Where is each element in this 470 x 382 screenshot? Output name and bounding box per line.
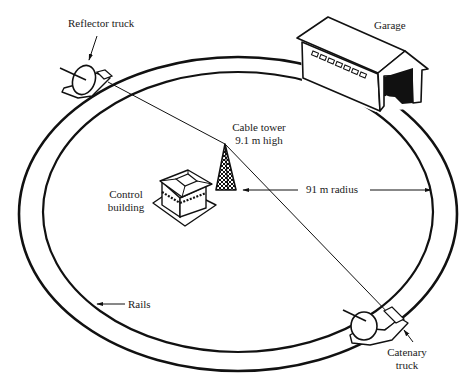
control-building-label-line1: Control bbox=[100, 188, 152, 201]
radius-label: 91 m radius bbox=[306, 183, 358, 196]
garage-label: Garage bbox=[374, 19, 406, 32]
garage-icon bbox=[297, 17, 428, 112]
catenary-truck-label-line1: Catenary bbox=[380, 346, 434, 359]
control-building-label: Control building bbox=[100, 188, 152, 214]
catenary-truck-label-line2: truck bbox=[380, 359, 434, 372]
rails-label: Rails bbox=[128, 298, 151, 311]
catenary-truck-icon bbox=[343, 307, 408, 345]
cable-tower-label-line1: Cable tower bbox=[224, 121, 294, 134]
reflector-truck-icon bbox=[60, 62, 112, 98]
cable-tower-label-line2: 9.1 m high bbox=[224, 134, 294, 147]
diagram-graphics bbox=[0, 0, 470, 382]
catenary-truck-label: Catenary truck bbox=[380, 346, 434, 372]
control-building-icon bbox=[153, 170, 216, 226]
reflector-truck-label: Reflector truck bbox=[68, 17, 134, 30]
control-building-label-line2: building bbox=[100, 201, 152, 214]
diagram-canvas: Reflector truck Garage Cable tower 9.1 m… bbox=[0, 0, 470, 382]
cable-tower-label: Cable tower 9.1 m high bbox=[224, 121, 294, 147]
cable-tower-icon bbox=[216, 144, 236, 190]
